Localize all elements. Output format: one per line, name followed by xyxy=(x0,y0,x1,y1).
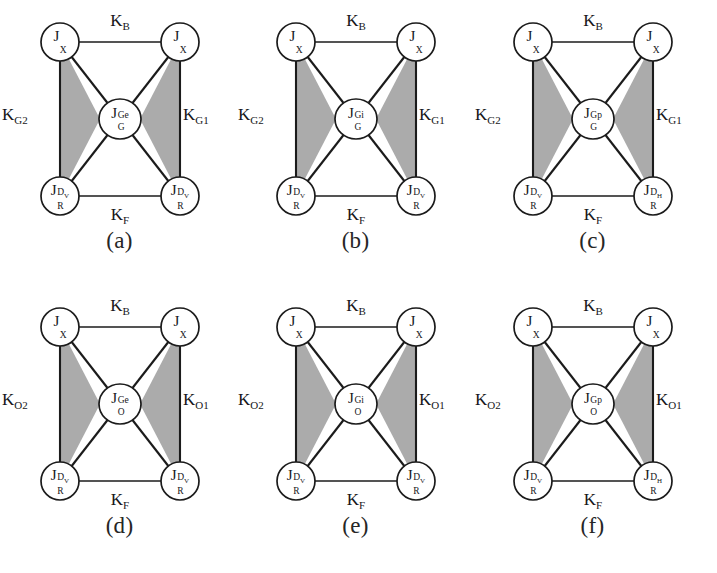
edge-label-right: KG1 xyxy=(183,106,239,126)
node-label-bottom-left: JDVR xyxy=(507,468,559,495)
shaded-wedge-right xyxy=(613,327,653,481)
edge-label-top: KB xyxy=(316,297,396,317)
shaded-wedge-right xyxy=(140,42,180,196)
edge-label-left: KG2 xyxy=(475,106,531,126)
panel-caption: (c) xyxy=(473,228,712,254)
panel-c: J XJ XJDVRJDHRJGpGKBKFKG2KG1(c) xyxy=(473,0,712,286)
edge-label-top-wrapper: KB xyxy=(80,12,160,38)
shaded-wedge-right xyxy=(376,327,416,481)
node-label-bottom-left: JDVR xyxy=(34,183,86,210)
edge-label-bottom: KF xyxy=(553,206,633,226)
panel-d: J XJ XJDVRJDVRJGeOKBKFKO2KO1(d) xyxy=(0,285,239,571)
node-label-top-right-wrapper: J X xyxy=(154,29,206,56)
edge-label-left-wrapper: KO2 xyxy=(238,391,294,417)
node-label-bottom-left: JDVR xyxy=(507,183,559,210)
edge-label-right: KO1 xyxy=(419,391,475,411)
edge-label-right-wrapper: KO1 xyxy=(656,391,712,417)
node-label-center: JGiO xyxy=(330,391,382,418)
edge-label-right-wrapper: KG1 xyxy=(656,106,712,132)
edge-label-left-wrapper: KG2 xyxy=(2,106,58,132)
node-label-bottom-right: JDHR xyxy=(627,183,679,210)
panel-e: J XJ XJDVRJDVRJGiOKBKFKO2KO1(e) xyxy=(236,285,475,571)
node-label-top-right: J X xyxy=(627,29,679,56)
node-label-top-left: J X xyxy=(34,314,86,341)
node-label-bottom-left-wrapper: JDVR xyxy=(34,468,86,495)
node-label-top-left-wrapper: J X xyxy=(507,314,559,341)
node-label-top-left: J X xyxy=(507,29,559,56)
edge-label-top: KB xyxy=(553,297,633,317)
edge-label-left: KG2 xyxy=(2,106,58,126)
node-label-top-right-wrapper: J X xyxy=(627,314,679,341)
node-label-bottom-left-wrapper: JDVR xyxy=(507,183,559,210)
edge-label-top-wrapper: KB xyxy=(80,297,160,323)
node-label-bottom-left-wrapper: JDVR xyxy=(507,468,559,495)
edge-label-top: KB xyxy=(80,297,160,317)
edge-label-top: KB xyxy=(80,12,160,32)
edge-label-bottom: KF xyxy=(553,491,633,511)
edge-label-right: KG1 xyxy=(419,106,475,126)
shaded-wedge-right xyxy=(140,327,180,481)
edge-label-bottom: KF xyxy=(316,491,396,511)
edge-label-right-wrapper: KG1 xyxy=(419,106,475,132)
edge-label-top: KB xyxy=(316,12,396,32)
panel-caption: (a) xyxy=(0,228,239,254)
figure-six-panel-junction-diagrams: J XJ XJDVRJDVRJGeGKBKFKG2KG1(a)J XJ XJDV… xyxy=(0,0,717,573)
node-label-top-left: J X xyxy=(34,29,86,56)
panel-caption: (d) xyxy=(0,513,239,539)
edge-label-right: KG1 xyxy=(656,106,712,126)
node-label-center: JGeG xyxy=(94,106,146,133)
node-label-center: JGpG xyxy=(567,106,619,133)
node-label-top-left-wrapper: J X xyxy=(270,29,322,56)
edge-label-left: KG2 xyxy=(238,106,294,126)
edge-label-right-wrapper: KG1 xyxy=(183,106,239,132)
edge-label-bottom: KF xyxy=(316,206,396,226)
edge-label-left-wrapper: KG2 xyxy=(475,106,531,132)
node-label-bottom-left-wrapper: JDVR xyxy=(270,468,322,495)
node-label-bottom-right: JDVR xyxy=(390,468,442,495)
node-label-bottom-left: JDVR xyxy=(270,183,322,210)
node-label-bottom-right-wrapper: JDHR xyxy=(627,468,679,495)
edge-label-top-wrapper: KB xyxy=(553,12,633,38)
node-label-center: JGiG xyxy=(330,106,382,133)
node-label-top-left: J X xyxy=(270,314,322,341)
node-label-bottom-right: JDVR xyxy=(390,183,442,210)
edge-label-top-wrapper: KB xyxy=(316,12,396,38)
node-label-top-left-wrapper: J X xyxy=(34,314,86,341)
node-label-center: JGeO xyxy=(94,391,146,418)
node-label-bottom-right-wrapper: JDVR xyxy=(390,468,442,495)
edge-label-left: KO2 xyxy=(238,391,294,411)
shaded-wedge-right xyxy=(376,42,416,196)
node-label-bottom-right-wrapper: JDHR xyxy=(627,183,679,210)
node-label-bottom-right-wrapper: JDVR xyxy=(154,183,206,210)
node-label-top-right: J X xyxy=(154,314,206,341)
node-label-bottom-left: JDVR xyxy=(270,468,322,495)
node-label-center: JGpO xyxy=(567,391,619,418)
node-label-top-right: J X xyxy=(390,29,442,56)
edge-label-left-wrapper: KG2 xyxy=(238,106,294,132)
panel-a: J XJ XJDVRJDVRJGeGKBKFKG2KG1(a) xyxy=(0,0,239,286)
node-label-bottom-left: JDVR xyxy=(34,468,86,495)
edge-label-bottom: KF xyxy=(80,206,160,226)
node-label-bottom-right-wrapper: JDVR xyxy=(390,183,442,210)
node-label-bottom-right-wrapper: JDVR xyxy=(154,468,206,495)
node-label-bottom-left-wrapper: JDVR xyxy=(270,183,322,210)
node-label-top-left-wrapper: J X xyxy=(34,29,86,56)
node-label-top-right-wrapper: J X xyxy=(390,29,442,56)
node-label-top-left: J X xyxy=(507,314,559,341)
edge-label-left-wrapper: KO2 xyxy=(475,391,531,417)
shaded-wedge-right xyxy=(613,42,653,196)
node-label-center-wrapper: JGiO xyxy=(330,391,382,418)
node-label-top-right: J X xyxy=(390,314,442,341)
panel-caption: (e) xyxy=(236,513,475,539)
panel-b: J XJ XJDVRJDVRJGiGKBKFKG2KG1(b) xyxy=(236,0,475,286)
edge-label-right: KO1 xyxy=(656,391,712,411)
node-label-center-wrapper: JGpG xyxy=(567,106,619,133)
panel-caption: (b) xyxy=(236,228,475,254)
edge-label-right-wrapper: KO1 xyxy=(183,391,239,417)
edge-label-bottom: KF xyxy=(80,491,160,511)
node-label-bottom-right: JDVR xyxy=(154,468,206,495)
edge-label-top: KB xyxy=(553,12,633,32)
edge-label-right-wrapper: KO1 xyxy=(419,391,475,417)
node-label-center-wrapper: JGeG xyxy=(94,106,146,133)
node-label-center-wrapper: JGeO xyxy=(94,391,146,418)
